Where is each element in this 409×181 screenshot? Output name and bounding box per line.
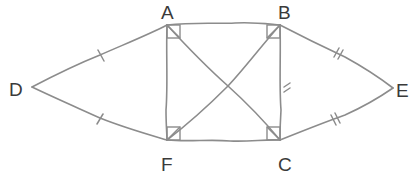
diagonal-ac	[167, 25, 280, 140]
edge-ab	[167, 23, 280, 25]
vertex-label-e: E	[396, 80, 409, 101]
vertex-label-d: D	[9, 79, 23, 100]
edge-af	[166, 25, 167, 140]
right-angle-marker-a	[167, 25, 180, 38]
edge-fc	[167, 140, 280, 141]
vertex-label-c: C	[278, 154, 292, 175]
vertex-label-a: A	[161, 2, 174, 23]
geometry-diagram: A B F C D E	[0, 0, 409, 181]
vertex-label-f: F	[161, 154, 173, 175]
edge-bc	[280, 25, 281, 140]
edge-be	[280, 25, 393, 88]
right-angle-marker-b	[267, 25, 280, 38]
vertex-label-b: B	[278, 2, 291, 23]
edge-ce	[280, 88, 393, 140]
right-angle-marker-c	[267, 127, 280, 140]
edge-df	[32, 87, 167, 140]
double-tick-bc	[284, 83, 290, 92]
edge-da	[32, 25, 167, 87]
right-angle-marker-f	[167, 127, 180, 140]
